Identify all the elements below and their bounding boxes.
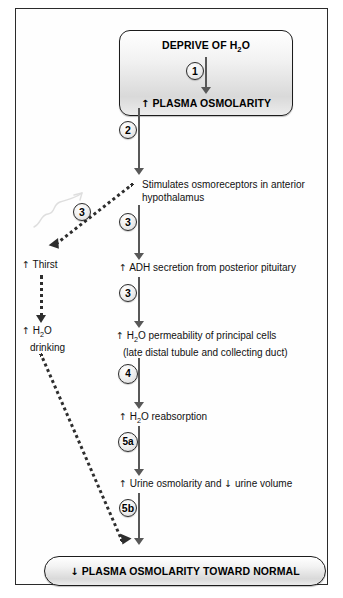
arrow-step-3-shaft	[138, 205, 140, 255]
node-water-permeability-line2: (late distal tubule and collecting duct)	[123, 347, 288, 358]
step-2-badge: 2	[119, 121, 137, 139]
increase-arrow-icon: ↑	[22, 259, 30, 270]
bottom-box-plasma-osmolarity-normal: ↓ PLASMA OSMOLARITY TOWARD NORMAL	[44, 556, 326, 586]
arrow-step-6-shaft	[138, 493, 140, 540]
arrow-step-2-head	[134, 168, 144, 175]
increase-arrow-icon: ↑	[22, 325, 30, 336]
arrow-step-2-shaft	[138, 108, 140, 170]
node-urine-osmolarity-textb: urine volume	[232, 478, 292, 489]
top-box-deprive-of-water: DEPRIVE OF H2O 1 ↑ PLASMA OSMOLARITY	[119, 30, 293, 116]
node-thirst: ↑ Thirst	[22, 259, 58, 272]
node-water-permeability-line1a: H	[124, 330, 134, 341]
step-6-badge: 5b	[119, 499, 137, 517]
node-water-drinking: ↑ H2O drinking	[22, 325, 84, 354]
arrow-step-4-shaft	[138, 277, 140, 323]
node-water-drinking-line2: drinking	[30, 342, 65, 353]
arrow-thirst-to-drinking-head	[36, 315, 46, 323]
node-osmoreceptors-line1: Stimulates osmoreceptors in anterior	[142, 179, 305, 190]
arrow-step-5b-shaft	[138, 426, 140, 471]
diagram-canvas: DEPRIVE OF H2O 1 ↑ PLASMA OSMOLARITY 2 S…	[0, 0, 343, 598]
arrow-step-5a-shaft	[138, 358, 140, 404]
node-water-reabsorption-textb: O reabsorption	[141, 411, 207, 422]
arrow-step-5b-head	[134, 469, 144, 476]
bottom-box-text: ↓ PLASMA OSMOLARITY TOWARD NORMAL	[45, 565, 325, 577]
arrow-step-1-head	[201, 87, 211, 94]
arrow-thirst-to-drinking-shaft	[40, 275, 43, 317]
top-box-title-suffix: O	[242, 39, 250, 51]
node-osmoreceptors: Stimulates osmoreceptors in anterior hyp…	[142, 179, 322, 204]
node-urine-osmolarity-texta: Urine osmolarity and	[127, 478, 224, 489]
arrow-step-3-head	[134, 253, 144, 260]
node-adh-secretion: ↑ ADH secretion from posterior pituitary	[119, 262, 296, 275]
step-5a-badge: 4	[118, 364, 138, 384]
top-box-title: DEPRIVE OF H2O	[120, 39, 292, 54]
increase-arrow-icon: ↑	[119, 262, 127, 273]
arrow-step-4-head	[134, 321, 144, 328]
node-water-reabsorption-texta: H	[127, 411, 137, 422]
node-thirst-text: Thirst	[30, 259, 58, 270]
top-box-outcome-text: PLASMA OSMOLARITY	[149, 97, 271, 109]
node-water-drinking-line1a: H	[30, 325, 40, 336]
node-water-permeability-line1b: O permeability of principal cells	[138, 330, 276, 341]
bottom-box-label-text: PLASMA OSMOLARITY TOWARD NORMAL	[79, 565, 300, 577]
top-box-title-text: DEPRIVE OF H	[162, 39, 237, 51]
arrow-step-6-head	[134, 538, 144, 545]
decrease-arrow-icon: ↓	[224, 478, 232, 489]
node-urine-osmolarity: ↑ Urine osmolarity and ↓ urine volume	[119, 478, 292, 491]
arrow-step-5a-head	[134, 402, 144, 409]
diagram-frame: DEPRIVE OF H2O 1 ↑ PLASMA OSMOLARITY 2 S…	[15, 8, 328, 585]
increase-arrow-icon: ↑	[119, 411, 127, 422]
node-water-permeability: ↑ H2O permeability of principal cells (l…	[116, 330, 316, 359]
arrow-drinking-to-bottom-shaft	[39, 353, 123, 542]
step-3-main-badge: 3	[119, 213, 137, 231]
increase-arrow-icon: ↑	[119, 478, 127, 489]
top-box-outcome: ↑ PLASMA OSMOLARITY	[120, 97, 292, 109]
arrow-step-1-shaft	[205, 57, 207, 89]
step-4-badge: 3	[119, 284, 137, 302]
step-1-badge: 1	[186, 62, 204, 80]
node-water-reabsorption: ↑ H2O reabsorption	[119, 411, 207, 428]
step-5b-badge: 5a	[118, 432, 138, 452]
node-adh-secretion-text: ADH secretion from posterior pituitary	[127, 262, 296, 273]
arrow-drinking-to-bottom-head	[117, 534, 132, 547]
increase-arrow-icon: ↑	[116, 330, 124, 341]
node-osmoreceptors-line2: hypothalamus	[142, 192, 204, 203]
decrease-arrow-icon: ↓	[70, 566, 78, 577]
node-water-drinking-line1b: O	[44, 325, 52, 336]
step-3-thirst-badge: 3	[73, 203, 91, 221]
